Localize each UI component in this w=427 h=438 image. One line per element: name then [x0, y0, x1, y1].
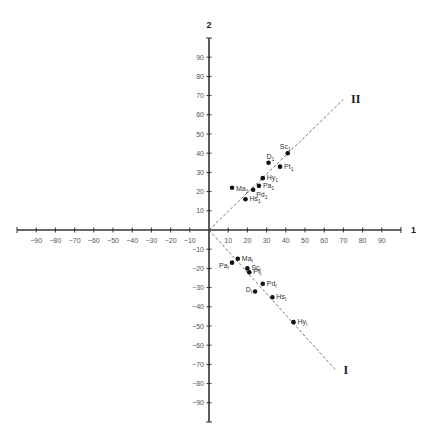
- y-tick-label: −40: [192, 303, 204, 310]
- x-tick-label: 40: [282, 237, 290, 244]
- point-ma-1: Ma1: [230, 185, 249, 194]
- point-label: Pt1: [284, 163, 294, 172]
- axes: −90−80−70−60−50−40−30−20−101020304050607…: [17, 20, 416, 422]
- x-tick-label: 50: [301, 237, 309, 244]
- x-tick-label: −20: [165, 237, 177, 244]
- y-tick-label: 10: [196, 207, 204, 214]
- x-tick-label: −10: [184, 237, 196, 244]
- y-tick-label: 30: [196, 169, 204, 176]
- line-label-ii: II: [351, 92, 361, 106]
- point-ma-i: MaI: [236, 255, 253, 264]
- x-tick-label: −90: [30, 237, 42, 244]
- point-label: Ma1: [236, 185, 249, 194]
- y-tick-label: 70: [196, 92, 204, 99]
- y-axis-title: 2: [206, 20, 211, 30]
- point-marker: [270, 295, 275, 300]
- y-tick-label: −80: [192, 380, 204, 387]
- y-tick-label: −90: [192, 399, 204, 406]
- x-tick-label: −40: [126, 237, 138, 244]
- x-tick-label: 90: [378, 237, 386, 244]
- point-label: Sc1: [280, 143, 291, 152]
- y-tick-label: 80: [196, 73, 204, 80]
- point-marker: [278, 164, 283, 169]
- line-label-i: I: [343, 363, 348, 377]
- point-pa-1: Pa1: [257, 182, 275, 191]
- point-marker: [243, 197, 248, 202]
- factor-line-ii: [209, 99, 343, 230]
- x-tick-label: −80: [49, 237, 61, 244]
- y-tick-label: 50: [196, 131, 204, 138]
- point-label: MaI: [242, 255, 253, 264]
- x-tick-label: 70: [340, 237, 348, 244]
- x-tick-label: 60: [320, 237, 328, 244]
- reference-lines: [209, 99, 343, 370]
- y-tick-label: −50: [192, 323, 204, 330]
- x-tick-label: −30: [145, 237, 157, 244]
- point-pt-1: Pt1: [278, 163, 294, 172]
- point-pa-i: PaI: [219, 260, 234, 270]
- y-tick-label: 40: [196, 150, 204, 157]
- point-d-1: D1: [266, 153, 274, 165]
- point-label: D1: [267, 153, 275, 162]
- point-label: HyI: [297, 318, 307, 327]
- point-marker: [257, 184, 262, 189]
- x-tick-label: 10: [224, 237, 232, 244]
- point-label: PdI: [267, 280, 277, 289]
- point-marker: [247, 270, 252, 275]
- point-marker: [291, 320, 296, 325]
- y-tick-label: 90: [196, 54, 204, 61]
- point-label: HsI: [276, 293, 286, 302]
- plot-canvas: −90−80−70−60−50−40−30−20−101020304050607…: [0, 0, 427, 438]
- x-tick-label: −50: [107, 237, 119, 244]
- point-hy-i: HyI: [291, 318, 307, 327]
- data-points: Sc1D1Pt1Hy1Pa1Pd1Ma1Hs1MaIPaIScIPtIPdIDI…: [219, 143, 307, 327]
- point-label: Pa1: [263, 182, 275, 191]
- point-d-i: DI: [246, 286, 258, 295]
- point-marker: [260, 281, 265, 286]
- point-label: DI: [246, 286, 252, 295]
- point-marker: [230, 185, 235, 190]
- y-tick-label: 60: [196, 111, 204, 118]
- y-tick-label: −20: [192, 265, 204, 272]
- point-marker: [236, 257, 241, 262]
- x-tick-label: 20: [244, 237, 252, 244]
- point-marker: [251, 187, 256, 192]
- point-marker: [230, 260, 235, 265]
- y-tick-label: −60: [192, 342, 204, 349]
- factor-line-i: [209, 230, 336, 370]
- y-tick-label: −30: [192, 284, 204, 291]
- point-pd-i: PdI: [260, 280, 276, 289]
- x-tick-label: −60: [88, 237, 100, 244]
- point-marker: [253, 289, 258, 294]
- x-tick-label: 80: [359, 237, 367, 244]
- point-hs-i: HsI: [270, 293, 286, 302]
- y-tick-label: −10: [192, 246, 204, 253]
- point-marker: [260, 176, 265, 181]
- x-tick-label: 30: [263, 237, 271, 244]
- x-tick-label: −70: [69, 237, 81, 244]
- y-tick-label: −70: [192, 361, 204, 368]
- point-label: PaI: [219, 262, 229, 271]
- x-axis-title: 1: [411, 225, 416, 235]
- factor-scatter-diagram: −90−80−70−60−50−40−30−20−101020304050607…: [0, 0, 427, 438]
- line-annotations: III: [343, 92, 360, 377]
- point-sc-1: Sc1: [280, 143, 291, 155]
- y-tick-label: 20: [196, 188, 204, 195]
- point-marker: [266, 161, 271, 166]
